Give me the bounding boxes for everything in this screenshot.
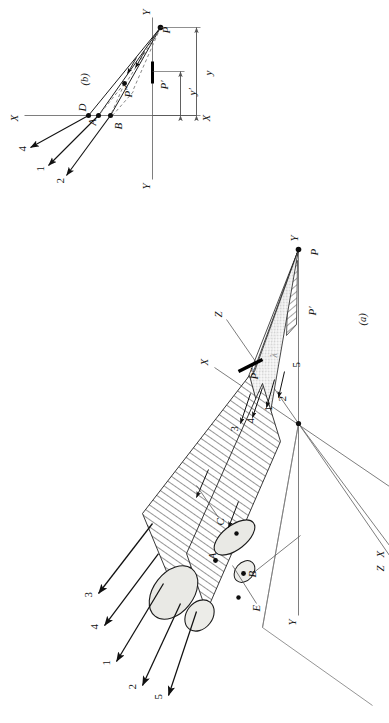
panel-a-inner-ray-label-5: 5 (290, 362, 301, 368)
panel-a-axis-label-z-lower: Z (374, 565, 385, 571)
panel-a-ray-4 (104, 553, 158, 625)
panel-a-ray-label-2: 2 (126, 684, 137, 690)
panel-a-label-p-double-prime: P″ (248, 368, 259, 379)
panel-a-origin-dot (295, 420, 300, 425)
panel-a-axis-z-lower (298, 423, 389, 555)
figure-page: 5 2 1 4 3 E B A C 3 4 1 2 5 P″ P′ P Y Y … (0, 0, 389, 723)
panel-b-point-label-A: A (86, 118, 97, 125)
panel-b-ray-4 (30, 115, 88, 147)
panel-b-point-label-D: D (76, 103, 87, 111)
panel-a-ray-3 (98, 523, 152, 593)
panel-a-point-P (295, 246, 301, 252)
panel-a-group (98, 246, 389, 705)
panel-b-dimension-label-y-prime: y′ (186, 88, 197, 95)
panel-a-ray-label-4: 4 (88, 624, 99, 630)
panel-a-label-p: P (308, 248, 319, 255)
panel-a-caption: (a) (356, 313, 367, 325)
panel-a-axis-label-z-upper: Z (212, 311, 223, 317)
panel-a-reference-planes (262, 423, 372, 705)
panel-a-inner-ray-label-4: 4 (244, 418, 255, 424)
panel-b-label-p-prime: P′ (158, 80, 169, 89)
panel-b-caption: (b) (78, 73, 89, 85)
panel-b-dimension-label-y: y (202, 70, 213, 75)
panel-b-ray-label-4: 4 (16, 146, 27, 152)
panel-b-ray-label-2: 2 (54, 178, 65, 184)
panel-a-point-label-A: A (206, 552, 217, 559)
panel-a-inner-ray-label-3: 3 (228, 426, 239, 432)
panel-b-point-label-B: B (112, 122, 123, 129)
panel-a-label-lambda: λ (268, 353, 278, 357)
panel-a-ray-label-1: 1 (100, 660, 111, 666)
panel-b-dimension-lines (152, 27, 200, 115)
panel-a-inner-ray-label-2: 2 (276, 396, 287, 402)
panel-a-inner-ray-label-1: 1 (262, 406, 273, 412)
panel-b-group (24, 17, 200, 179)
panel-a-axis-label-x-bottom: X (374, 550, 385, 557)
panel-b-axis-label-y-left: Y (140, 183, 151, 189)
panel-a-point-label-E: E (250, 604, 261, 611)
panel-b-label-p-double-prime: P″ (122, 86, 133, 97)
panel-a-ray-label-3: 3 (82, 592, 93, 598)
panel-b-ray-label-1: 1 (34, 166, 45, 172)
rotated-figure-canvas: 5 2 1 4 3 E B A C 3 4 1 2 5 P″ P′ P Y Y … (0, 0, 389, 723)
panel-a-point-label-C: C (214, 518, 225, 525)
panel-a-point-E (236, 595, 240, 599)
panel-a-point-label-B: B (246, 570, 257, 577)
panel-a-axis-label-y-left: Y (286, 619, 297, 625)
panel-b-axis-label-x-bottom: X (200, 114, 211, 121)
panel-b-label-p: P (160, 26, 171, 33)
panel-b-axis-label-y-right: Y (140, 9, 151, 15)
panel-a-label-p-prime: P′ (306, 306, 317, 315)
panel-a-axis-label-x-top: X (198, 358, 209, 365)
optics-aberration-figure (0, 0, 389, 723)
panel-a-axis-label-y-right: Y (288, 235, 299, 241)
panel-b-axis-label-x-top: X (8, 114, 19, 121)
panel-a-ray-label-5: 5 (152, 694, 163, 700)
